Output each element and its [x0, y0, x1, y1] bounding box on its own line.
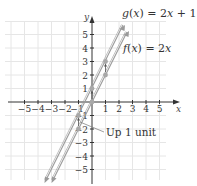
label-f: f(x) = 2x — [122, 42, 172, 55]
y-axis-arrow-icon — [90, 16, 95, 23]
x-tick-label: −4 — [31, 104, 45, 114]
x-tick-label: 5 — [157, 104, 163, 114]
x-tick-label: −3 — [45, 104, 59, 114]
annotation-up-1-unit: Up 1 unit — [106, 126, 157, 138]
y-tick-label: −4 — [75, 152, 89, 162]
x-tick-label: 1 — [103, 104, 109, 114]
arrow-down-icon — [52, 177, 57, 184]
y-tick-label: 4 — [82, 44, 88, 54]
y-tick-label: 5 — [82, 30, 88, 40]
y-tick-label: 1 — [82, 84, 88, 94]
y-tick-label: −3 — [75, 138, 89, 148]
x-tick-label: 3 — [130, 104, 136, 114]
label-g: g(x) = 2x + 1 — [122, 7, 197, 20]
arrow-down-icon — [45, 177, 50, 184]
x-axis-label: x — [176, 104, 181, 114]
y-axis-label: y — [83, 12, 90, 22]
y-tick-label: −5 — [75, 165, 89, 175]
x-tick-label: −5 — [18, 104, 32, 114]
x-tick-label: 2 — [116, 104, 122, 114]
x-tick-label: 4 — [143, 104, 149, 114]
y-tick-label: 3 — [82, 57, 88, 67]
arrow-up-icon — [104, 64, 107, 67]
arrow-up-icon — [91, 91, 94, 94]
chart-canvas: −5 −4 −3 −2 −1 1 2 3 4 5 5 4 3 2 1 −1 −2… — [0, 0, 197, 186]
y-tick-label: 2 — [82, 71, 88, 81]
